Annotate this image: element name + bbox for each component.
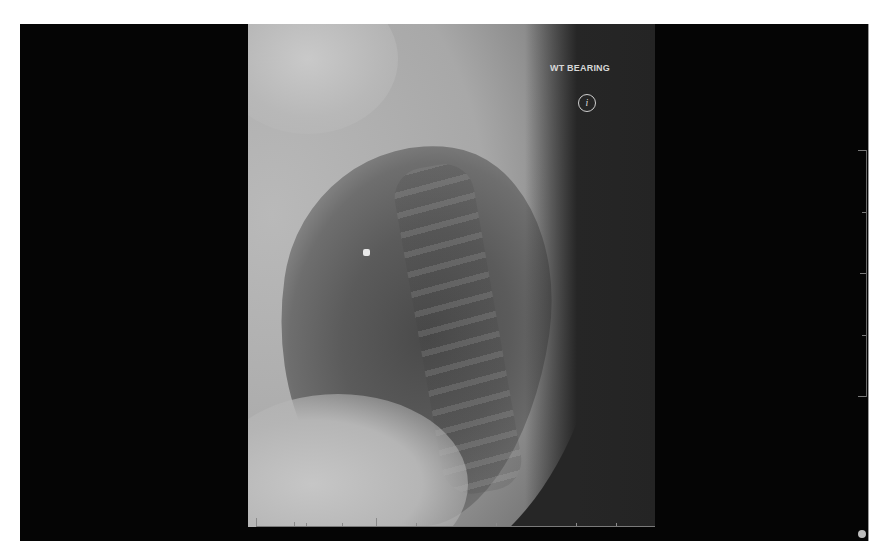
ruler-tick [376,518,377,526]
ruler-tick [862,335,866,336]
ruler-tick [862,212,866,213]
ruler-tick [256,518,257,526]
ruler-tick [576,523,577,526]
ruler-tick [616,523,617,526]
ruler-tick [858,396,866,397]
info-icon[interactable]: i [578,94,596,112]
image-viewer[interactable]: WT BEARING i [20,24,869,541]
view-annotation-label: WT BEARING [550,63,610,73]
vertical-ruler [862,150,867,397]
marker-icon [363,249,370,256]
ruler-tick [860,273,866,274]
ruler-tick [416,523,417,526]
scroll-handle-icon[interactable] [858,530,866,538]
xray-image[interactable]: WT BEARING i [248,24,655,527]
ruler-tick [294,522,295,526]
ruler-tick [342,523,343,526]
horizontal-ruler [256,522,655,527]
ruler-tick [306,523,307,526]
ruler-tick [496,523,497,526]
ruler-tick [858,150,866,151]
